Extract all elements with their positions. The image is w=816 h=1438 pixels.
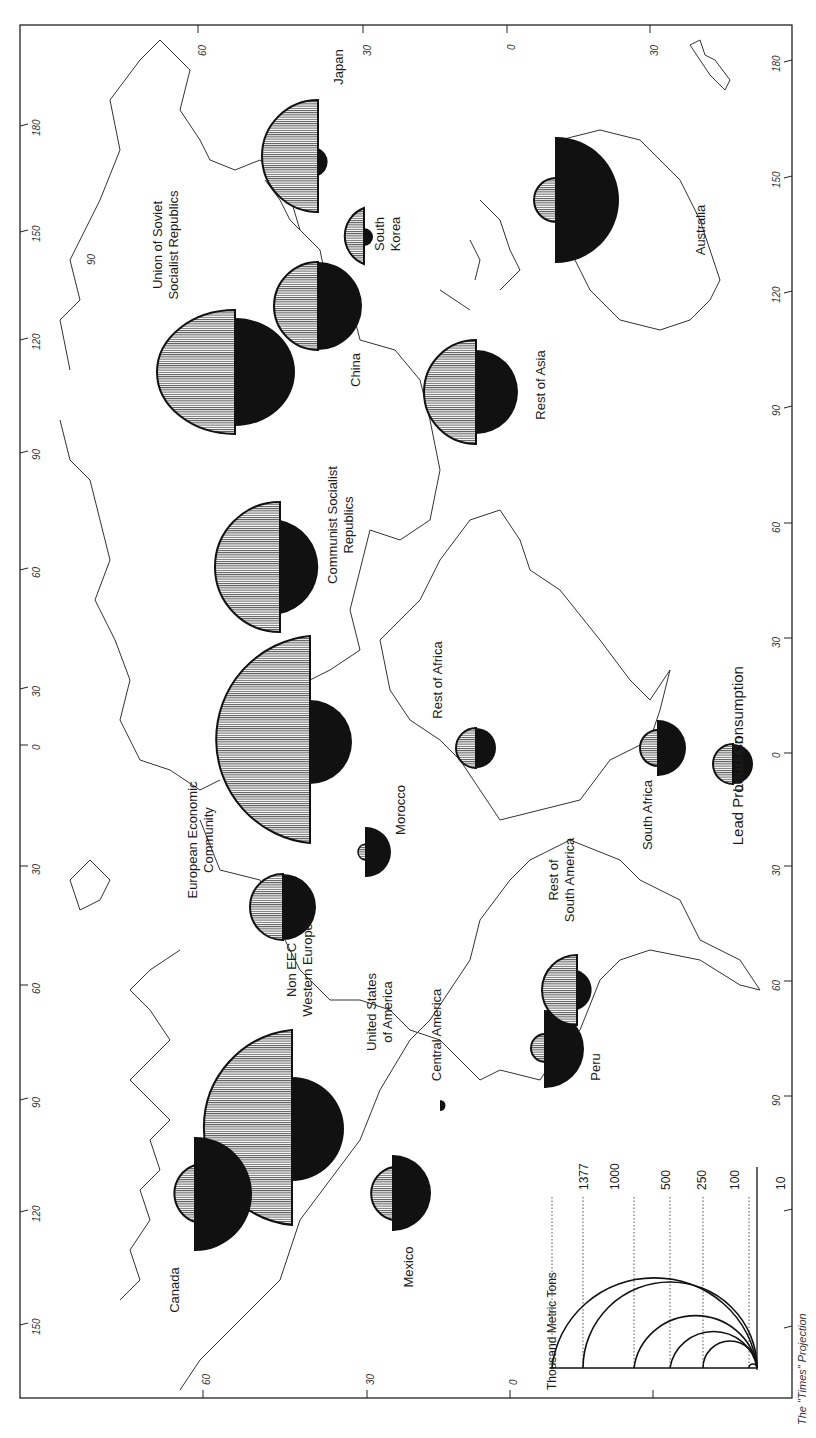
label-usa-2: of America (380, 981, 395, 1043)
scale-1377: 1377 (577, 1163, 591, 1190)
tick-right-0: 0 (771, 752, 782, 758)
tick-left-150w: 150 (31, 1318, 42, 1335)
label-eec-1: European Economic (185, 781, 200, 899)
label-central-america: Central America (429, 988, 444, 1081)
tick-bottom-30: 30 (365, 1373, 376, 1385)
label-canada: Canada (167, 1266, 182, 1312)
label-mexico: Mexico (401, 1246, 416, 1287)
label-south-korea-2: Korea (388, 216, 403, 251)
symbol-rest-of-asia (424, 340, 518, 444)
projection-credit: The "Times" Projection (796, 1313, 808, 1425)
label-china: China (348, 352, 363, 387)
tick-left-30w: 30 (31, 863, 42, 875)
label-usa-1: United States (364, 972, 379, 1051)
label-australia: Australia (693, 204, 708, 255)
symbol-australia (534, 137, 619, 263)
symbol-morocco (358, 827, 391, 877)
legend-consumption-label: Lead Consumption (729, 666, 746, 792)
size-scale: Thousand Metric Tons 1377 1000 500 250 1… (545, 1163, 788, 1390)
tick-left-0: 0 (31, 744, 42, 750)
tick-right-180: 180 (771, 55, 782, 72)
label-south-korea-1: South (372, 217, 387, 251)
tick-right-60w: 60 (771, 979, 782, 991)
bottom-axis-ticks: 60 30 0 (201, 1373, 653, 1398)
tick-right-120: 120 (771, 286, 782, 303)
top-axis-ticks: 60 30 0 30 (197, 25, 660, 56)
scale-100: 100 (728, 1170, 742, 1190)
label-eec-2: Community (201, 807, 216, 873)
label-japan: Japan (331, 49, 346, 84)
symbol-ussr (157, 310, 295, 434)
label-rest-of-asia: Rest of Asia (533, 350, 548, 420)
tick-left-60w: 60 (31, 982, 42, 994)
tick-top-0: 0 (506, 44, 517, 50)
scale-500: 500 (659, 1170, 673, 1190)
symbol-central-america (440, 1100, 446, 1111)
tick-left-120w: 120 (31, 1205, 42, 1222)
scale-10: 10 (774, 1176, 788, 1190)
label-peru: Peru (588, 1053, 603, 1080)
symbol-rest-of-africa (456, 728, 496, 768)
label-morocco: Morocco (393, 785, 408, 835)
scale-1000: 1000 (608, 1163, 622, 1190)
label-ussr-2: Socialist Republics (166, 190, 181, 300)
tick-top-30: 30 (362, 44, 373, 56)
label-csr-1: Communist Socialist (325, 466, 340, 584)
label-rest-sa-2: South America (562, 837, 577, 922)
tick-right-30w: 30 (771, 864, 782, 876)
label-rest-of-africa: Rest of Africa (430, 641, 445, 719)
left-axis-ticks: 180 150 120 90 60 30 0 30 60 90 120 150 (20, 119, 42, 1335)
tick-bottom-60: 60 (201, 1373, 212, 1385)
scale-250: 250 (695, 1170, 709, 1190)
label-csr-2: Republics (341, 496, 356, 554)
tick-left-30: 30 (31, 685, 42, 697)
symbol-eec (216, 636, 352, 843)
tick-bottom-0: 0 (508, 1379, 519, 1385)
symbol-communist-socialist-republics (215, 502, 318, 632)
scale-title: Thousand Metric Tons (545, 1272, 559, 1390)
label-non-eec-1: Non EEC (284, 943, 299, 997)
tick-right-90w: 90 (771, 1094, 782, 1106)
world-map-chart: 180 150 120 90 60 30 0 30 60 90 120 150 … (0, 0, 816, 1438)
right-axis-ticks: 180 150 120 90 60 30 0 30 60 90 (771, 55, 792, 1328)
symbol-china (274, 262, 362, 350)
tick-left-150: 150 (31, 225, 42, 242)
symbol-mexico (371, 1155, 431, 1231)
tick-left-120: 120 (31, 333, 42, 350)
symbol-south-africa (640, 720, 686, 776)
symbol-japan (262, 100, 328, 212)
tick-top-30s: 30 (649, 44, 660, 56)
tick-left-90w: 90 (31, 1096, 42, 1108)
tick-inner-90: 90 (86, 253, 97, 265)
label-rest-sa-1: Rest of (546, 859, 561, 901)
tick-right-60: 60 (771, 521, 782, 533)
tick-top-60: 60 (197, 44, 208, 56)
label-south-africa: South Africa (640, 779, 655, 850)
label-ussr-1: Union of Soviet (150, 201, 165, 290)
symbol-south-korea (345, 208, 373, 264)
tick-right-90: 90 (771, 404, 782, 416)
tick-left-60: 60 (31, 566, 42, 578)
tick-left-180: 180 (31, 119, 42, 136)
tick-left-90: 90 (31, 448, 42, 460)
tick-right-30: 30 (771, 636, 782, 648)
label-non-eec-2: Western Europe (300, 923, 315, 1017)
tick-right-150: 150 (771, 171, 782, 188)
